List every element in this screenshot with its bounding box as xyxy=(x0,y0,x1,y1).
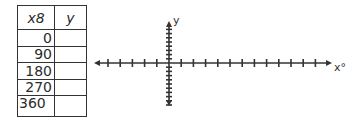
x-axis-label: x° xyxy=(334,61,346,74)
right-arrow-icon xyxy=(326,60,332,66)
coordinate-plane: y x° xyxy=(0,0,357,131)
up-arrow-icon xyxy=(166,21,172,27)
left-arrow-icon xyxy=(94,60,100,66)
y-axis-label: y xyxy=(173,14,180,27)
